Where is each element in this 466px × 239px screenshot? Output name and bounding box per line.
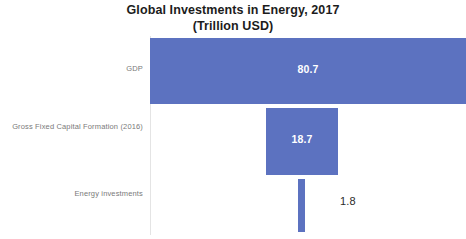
bar-chart-figure: Global Investments in Energy, 2017 (Tril… <box>0 0 466 239</box>
plot-area: 80.7 18.7 1.8 <box>150 35 466 235</box>
category-label-energy-investments: Energy investments <box>0 189 143 198</box>
bar-energy-investments <box>298 179 305 232</box>
chart-title-subtitle: (Trillion USD) <box>0 18 466 34</box>
chart-title: Global Investments in Energy, 2017 (Tril… <box>0 2 466 34</box>
chart-title-line-1: Global Investments in Energy, 2017 <box>0 2 466 18</box>
value-label-gross-fixed-capital-formation: 18.7 <box>266 133 338 145</box>
value-label-gdp: 80.7 <box>150 63 466 75</box>
category-label-gdp: GDP <box>0 64 143 73</box>
category-label-gross-fixed-capital-formation: Gross Fixed Capital Formation (2016) <box>0 122 143 131</box>
value-label-energy-investments: 1.8 <box>340 195 390 207</box>
